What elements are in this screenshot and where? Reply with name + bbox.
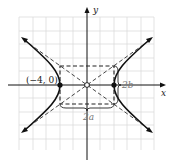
label-2b: 2b <box>121 80 134 90</box>
y-axis-label: y <box>92 5 99 15</box>
vertex-left <box>57 82 62 87</box>
hyperbola-diagram: x y (−4, 0) 2b 2a <box>0 0 170 162</box>
center-point <box>85 83 90 88</box>
vertex-right <box>111 82 116 87</box>
y-axis-arrow-icon <box>85 7 90 13</box>
label-2a: 2a <box>82 112 94 122</box>
x-axis-arrow-icon <box>160 83 166 88</box>
vertex-label: (−4, 0) <box>26 75 58 85</box>
x-axis-label: x <box>161 88 166 98</box>
